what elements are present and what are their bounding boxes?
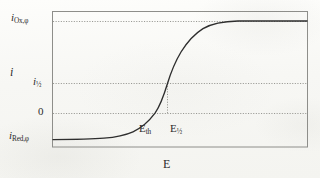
x-axis-title: E xyxy=(163,158,170,170)
x-tick-e-th-subscript: th xyxy=(146,128,151,136)
x-tick-e-half-subscript: ½ xyxy=(177,128,182,136)
y-tick-zero-symbol: 0 xyxy=(38,105,44,117)
y-axis-title: i xyxy=(10,66,13,78)
polarization-curve-plot xyxy=(0,0,320,178)
x-tick-e-th-symbol: E xyxy=(139,122,146,134)
y-tick-label-i-half: i½ xyxy=(33,76,41,87)
y-tick-i-ox-subscript: Ox,φ xyxy=(14,17,28,25)
y-tick-label-i-red: iRed,φ xyxy=(9,130,29,141)
x-tick-e-half-symbol: E xyxy=(170,122,177,134)
y-tick-i-half-subscript: ½ xyxy=(36,81,41,89)
y-tick-i-red-subscript: Red,φ xyxy=(12,135,29,143)
curve-path xyxy=(53,21,307,140)
x-tick-label-e-th: Eth xyxy=(139,123,151,134)
y-tick-label-i-ox: iOx,φ xyxy=(11,12,28,23)
y-tick-label-zero: 0 xyxy=(38,106,44,117)
x-tick-label-e-half: E½ xyxy=(170,123,182,134)
